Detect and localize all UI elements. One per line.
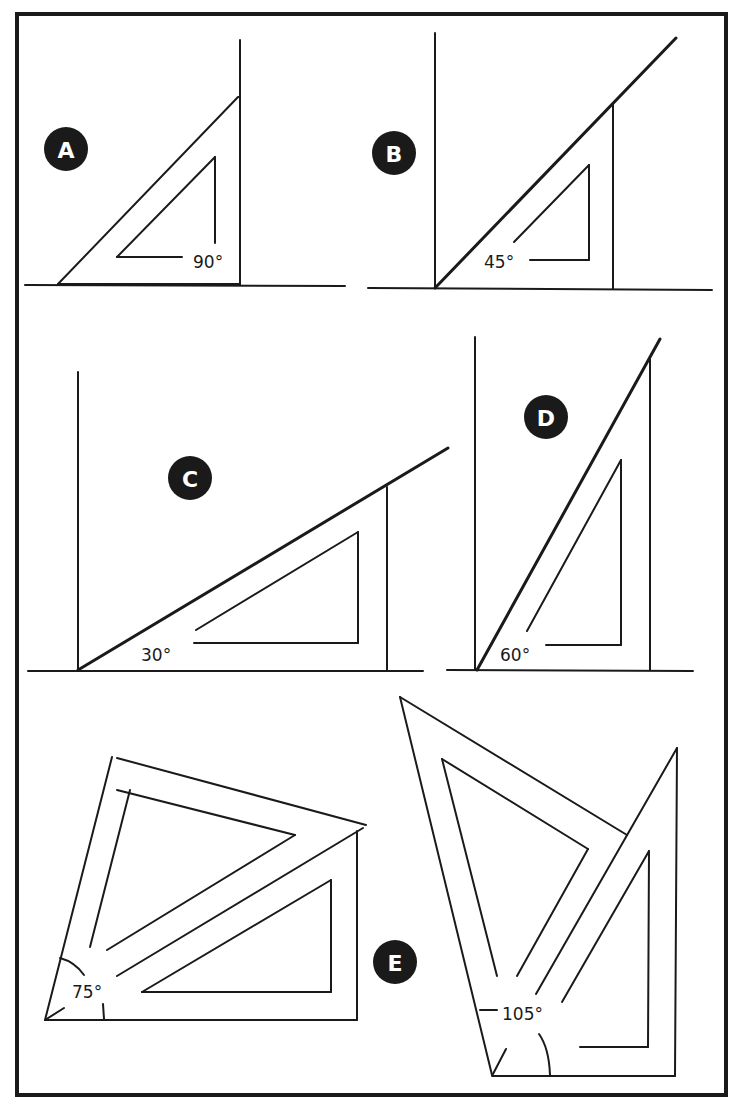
baseline-a	[25, 285, 345, 286]
triangle-e2-hypotenuse	[117, 828, 363, 976]
triangle-e1-left-edge	[45, 757, 112, 1020]
triangle-e1-inner-left	[90, 790, 130, 947]
angle-label-c: 30°	[141, 645, 171, 665]
triangle-e3-inner-right	[517, 849, 588, 976]
arc-75-bottom	[103, 1004, 104, 1019]
badge-a-label: A	[57, 138, 74, 163]
arc-75-top	[60, 958, 84, 975]
panel-d: 60° D	[447, 337, 693, 671]
line-30-degree-c	[78, 448, 448, 670]
triangle-e3-inner-top	[442, 759, 588, 849]
angle-label-e-105: 105°	[502, 1004, 543, 1024]
panel-c: 30° C	[28, 372, 448, 671]
triangle-d-inner-diagonal	[527, 460, 621, 631]
triangle-e4-inner-vertical	[648, 851, 649, 1047]
badge-c-label: C	[182, 467, 198, 492]
baseline-b	[368, 288, 712, 290]
triangle-e1-inner-top	[117, 790, 295, 835]
triangle-e3-left-edge	[400, 697, 492, 1075]
triangle-e2-inner-diagonal	[142, 880, 331, 992]
angle-label-d: 60°	[500, 645, 530, 665]
triangle-e3-inner-left	[442, 759, 497, 976]
triangle-e1-inner-right	[107, 835, 295, 950]
triangle-e4-vertical	[675, 748, 677, 1076]
line-60-degree-d	[477, 339, 660, 670]
triangle-e1-top-edge	[117, 758, 366, 825]
arc-105-tick	[493, 1049, 506, 1074]
panel-b: 45° B	[368, 33, 712, 290]
badge-d-label: D	[537, 406, 555, 431]
figure-frame	[17, 14, 726, 1095]
angle-label-e-75: 75°	[72, 982, 102, 1002]
triangle-e4-hypotenuse	[536, 748, 677, 994]
badge-e-label: E	[387, 951, 402, 976]
panel-e-75: 75°	[45, 757, 366, 1020]
triangle-b-inner-diagonal	[514, 165, 589, 242]
badge-b-label: B	[386, 142, 403, 167]
angle-label-a: 90°	[193, 252, 223, 272]
panel-a: 90° A	[25, 40, 345, 286]
triangle-e3-top-edge	[400, 697, 627, 835]
triangle-angles-figure: 90° A 45° B 30° C	[0, 0, 734, 1110]
arc-105-bottom	[539, 1034, 550, 1075]
triangle-c-inner-diagonal	[196, 532, 358, 630]
line-45-degree-b	[435, 38, 676, 288]
baseline-d	[447, 670, 693, 671]
angle-label-b: 45°	[484, 252, 514, 272]
panel-e-105: 105° E	[373, 697, 677, 1076]
